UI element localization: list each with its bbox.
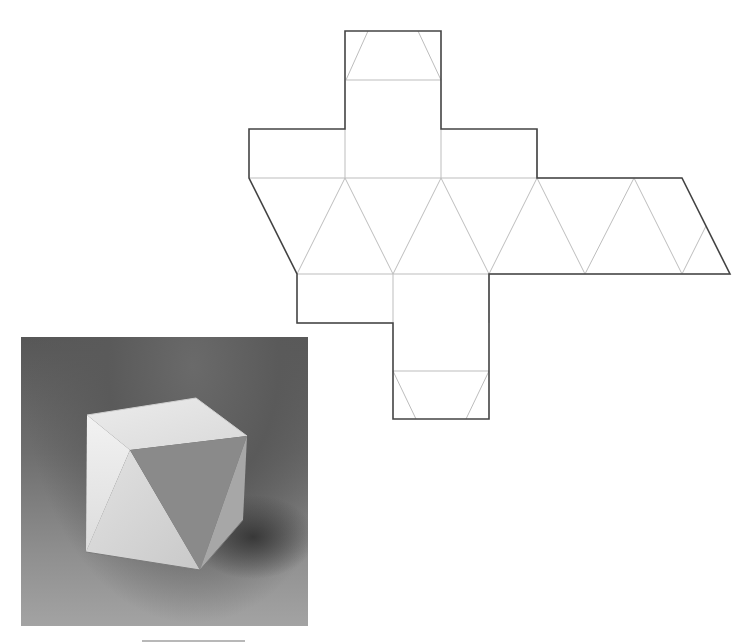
fold-line: [634, 178, 682, 274]
fold-line: [346, 31, 368, 80]
fold-line: [466, 371, 489, 419]
fold-line: [393, 178, 441, 274]
scale-bar: [142, 640, 245, 642]
fold-line: [585, 178, 634, 274]
fold-line: [418, 31, 441, 80]
fold-line: [345, 178, 393, 274]
fold-line: [489, 178, 537, 274]
fold-line: [393, 371, 416, 419]
fold-line: [441, 178, 489, 274]
cube-photo: [21, 337, 308, 626]
fold-line: [682, 226, 706, 274]
fold-line: [537, 178, 585, 274]
fold-line: [297, 178, 345, 274]
